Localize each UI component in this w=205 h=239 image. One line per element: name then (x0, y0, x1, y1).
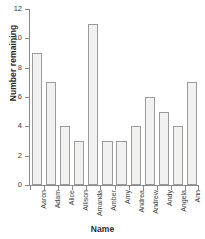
plot-area (30, 9, 199, 185)
y-axis-tick-label: 8 (8, 64, 22, 72)
bar (116, 141, 126, 185)
y-axis-tick-label: 10 (8, 34, 22, 42)
y-axis-tick-label: 2 (8, 152, 22, 160)
x-axis-tick-label: Angela (180, 190, 187, 212)
x-axis-tick-label: Ann (194, 190, 201, 202)
y-axis-tick-labels: 024681012 (8, 0, 22, 239)
y-axis-tick-label: 12 (8, 5, 22, 13)
bar (74, 141, 84, 185)
x-axis-title: Name (0, 224, 205, 234)
x-axis-tick-label: Andrew (152, 190, 159, 214)
x-axis-tick-label: Alice (68, 190, 75, 205)
y-axis-tick-label: 0 (8, 181, 22, 189)
bar (173, 126, 183, 185)
bar (187, 82, 197, 185)
y-axis-tick-label: 6 (8, 93, 22, 101)
bar (60, 126, 70, 185)
bar (46, 82, 56, 185)
bar (145, 97, 155, 185)
x-axis-tick-label: Andy (166, 190, 173, 206)
x-axis-tick-label: Aaron (40, 190, 47, 209)
x-axis-tick-label: Amanda (96, 190, 103, 216)
bar (159, 112, 169, 185)
x-axis-tick-labels: AaronAdamAliceAllisonAmandaAmberAmyAndre… (30, 190, 199, 222)
bar (32, 53, 42, 185)
x-axis-tick-label: Amy (124, 190, 131, 204)
bar (102, 141, 112, 185)
y-axis-tick-label: 4 (8, 122, 22, 130)
bar (88, 24, 98, 185)
x-axis-tick-label: Amber (110, 190, 117, 211)
x-axis-tick-label: Allison (82, 190, 89, 211)
x-axis-tick-label: Adam (54, 190, 61, 208)
bar (131, 126, 141, 185)
x-axis-tick-label: Andrea (138, 190, 145, 213)
bar-chart: Number remaining 024681012 AaronAdamAlic… (0, 0, 205, 239)
